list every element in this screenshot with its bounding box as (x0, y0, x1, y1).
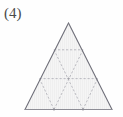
triangle-fill (25, 23, 112, 110)
vertex-dot-center (68, 78, 70, 80)
vertex-dot-base-right-third (82, 109, 84, 111)
vertex-dot-base-left-third (53, 109, 55, 111)
subdivided-triangle-diagram (0, 0, 123, 117)
figure-container: (4) (0, 0, 123, 117)
